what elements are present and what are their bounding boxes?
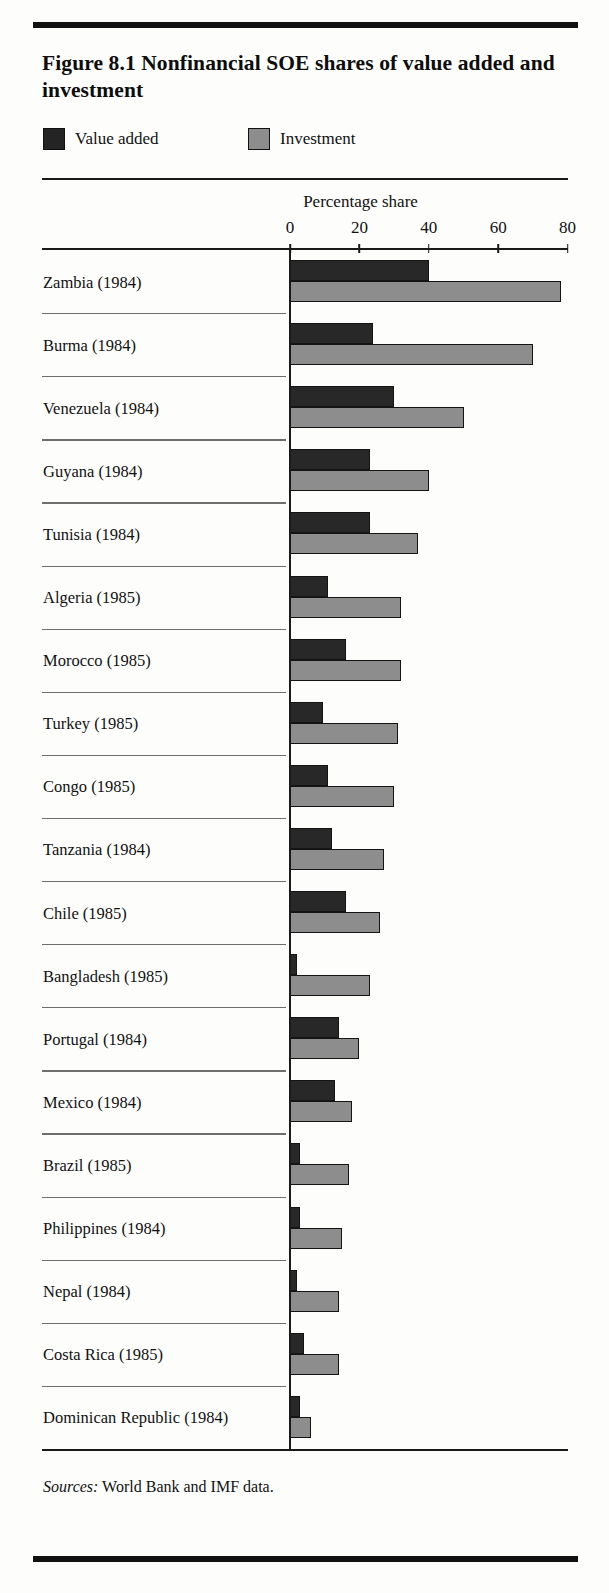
chart-row: Morocco (1985) [33, 629, 578, 694]
row-separator [42, 376, 286, 377]
chart-row: Philippines (1984) [33, 1197, 578, 1262]
bar-value-added [290, 512, 370, 533]
category-label: Brazil (1985) [43, 1156, 131, 1176]
category-label: Tanzania (1984) [43, 840, 150, 860]
bar-value-added [290, 260, 429, 281]
chart-row: Zambia (1984) [33, 250, 578, 315]
category-label: Mexico (1984) [43, 1093, 142, 1113]
axis-top-divider [42, 178, 568, 180]
category-label: Tunisia (1984) [43, 525, 140, 545]
row-separator [42, 1133, 286, 1134]
chart-legend: Value added Investment [43, 128, 563, 158]
category-label: Turkey (1985) [43, 714, 138, 734]
bar-investment [290, 1291, 339, 1312]
x-tick-label: 0 [286, 218, 295, 238]
bar-value-added [290, 323, 373, 344]
bar-value-added [290, 639, 346, 660]
bar-value-added [290, 1207, 300, 1228]
category-label: Congo (1985) [43, 777, 135, 797]
legend-item-investment: Investment [248, 128, 356, 150]
bar-investment [290, 786, 394, 807]
row-separator [42, 1260, 286, 1261]
x-axis-ticks: 020406080 [33, 218, 578, 244]
bar-investment [290, 849, 384, 870]
bar-investment [290, 344, 533, 365]
category-label: Dominican Republic (1984) [43, 1408, 228, 1428]
plot-bottom-rule [42, 1449, 568, 1451]
category-label: Costa Rica (1985) [43, 1345, 163, 1365]
row-separator [42, 1197, 286, 1198]
row-separator [42, 1007, 286, 1008]
chart-row: Portugal (1984) [33, 1007, 578, 1072]
row-separator [42, 313, 286, 314]
chart-row: Burma (1984) [33, 313, 578, 378]
bar-investment [290, 407, 464, 428]
bar-value-added [290, 1143, 300, 1164]
x-tick-label: 80 [559, 218, 576, 238]
bar-value-added [290, 1080, 335, 1101]
chart-row: Chile (1985) [33, 881, 578, 946]
bar-investment [290, 1101, 352, 1122]
legend-swatch-gray-icon [248, 128, 270, 150]
chart-row: Algeria (1985) [33, 566, 578, 631]
x-axis-baseline [289, 250, 291, 1449]
bar-value-added [290, 576, 328, 597]
bar-investment [290, 1038, 359, 1059]
row-separator [42, 1386, 286, 1387]
category-label: Chile (1985) [43, 904, 127, 924]
category-label: Guyana (1984) [43, 462, 142, 482]
bar-value-added [290, 828, 332, 849]
row-separator [42, 881, 286, 882]
category-label: Algeria (1985) [43, 588, 141, 608]
category-label: Portugal (1984) [43, 1030, 147, 1050]
chart-row: Nepal (1984) [33, 1260, 578, 1325]
bar-investment [290, 1354, 339, 1375]
chart-row: Venezuela (1984) [33, 376, 578, 441]
bar-investment [290, 281, 561, 302]
bar-investment [290, 723, 398, 744]
sources-label: Sources: [43, 1478, 98, 1495]
row-separator [42, 944, 286, 945]
category-label: Philippines (1984) [43, 1219, 165, 1239]
chart-row: Costa Rica (1985) [33, 1323, 578, 1388]
row-separator [42, 1323, 286, 1324]
x-axis-title: Percentage share [33, 192, 578, 212]
category-label: Bangladesh (1985) [43, 967, 168, 987]
row-separator [42, 629, 286, 630]
category-label: Morocco (1985) [43, 651, 151, 671]
chart-row: Dominican Republic (1984) [33, 1386, 578, 1451]
bar-investment [290, 912, 380, 933]
row-separator [42, 692, 286, 693]
bar-investment [290, 533, 418, 554]
bar-investment [290, 1228, 342, 1249]
bottom-rule [33, 1556, 578, 1562]
x-tick-label: 60 [490, 218, 507, 238]
chart-row: Tanzania (1984) [33, 818, 578, 883]
legend-label-value-added: Value added [75, 129, 159, 149]
bar-value-added [290, 1396, 300, 1417]
category-label: Burma (1984) [43, 336, 136, 356]
chart-row: Tunisia (1984) [33, 502, 578, 567]
legend-swatch-dark-icon [43, 128, 65, 150]
bar-investment [290, 1417, 311, 1438]
chart-row: Congo (1985) [33, 755, 578, 820]
chart-row: Turkey (1985) [33, 692, 578, 757]
bar-investment [290, 597, 401, 618]
category-label: Venezuela (1984) [43, 399, 159, 419]
category-label: Nepal (1984) [43, 1282, 131, 1302]
row-separator [42, 502, 286, 503]
row-separator [42, 439, 286, 440]
bar-value-added [290, 765, 328, 786]
bar-value-added [290, 386, 394, 407]
bar-investment [290, 1164, 349, 1185]
legend-label-investment: Investment [280, 129, 356, 149]
row-separator [42, 1070, 286, 1071]
chart-row: Mexico (1984) [33, 1070, 578, 1135]
category-label: Zambia (1984) [43, 273, 142, 293]
bar-value-added [290, 1333, 304, 1354]
bar-investment [290, 975, 370, 996]
row-separator [42, 755, 286, 756]
row-separator [42, 566, 286, 567]
x-tick-label: 40 [420, 218, 437, 238]
bar-value-added [290, 449, 370, 470]
